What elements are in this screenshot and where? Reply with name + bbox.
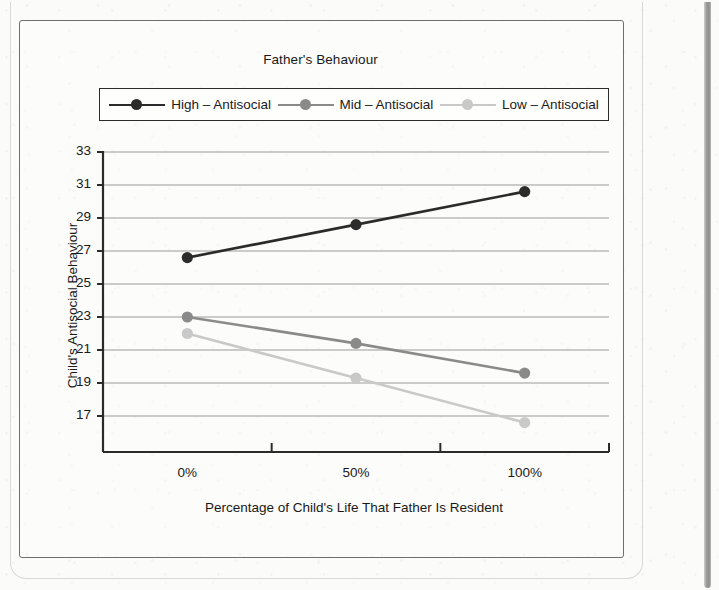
legend-label-low: Low – Antisocial: [502, 97, 599, 112]
scan-gutter-strip: [704, 2, 711, 588]
legend-item-high[interactable]: High – Antisocial: [109, 97, 271, 112]
legend-marker-high-icon: [109, 98, 165, 112]
legend-item-low[interactable]: Low – Antisocial: [440, 97, 599, 112]
legend-marker-low-icon: [440, 98, 496, 112]
x-axis-title: Percentage of Child's Life That Father I…: [99, 500, 609, 515]
legend-marker-mid-icon: [278, 98, 334, 112]
legend-label-mid: Mid – Antisocial: [340, 97, 434, 112]
legend-dot-mid: [300, 99, 311, 110]
chart-legend: High – Antisocial Mid – Antisocial Low –…: [99, 88, 609, 121]
x-tick-label: 50%: [316, 465, 396, 480]
legend-item-mid[interactable]: Mid – Antisocial: [278, 97, 434, 112]
legend-label-high: High – Antisocial: [171, 97, 271, 112]
chart-title: Father's Behaviour: [19, 52, 622, 67]
x-tick-label: 100%: [485, 465, 565, 480]
y-axis-title: Child's Antisocial Behaviour: [65, 156, 80, 456]
x-tick-label: 0%: [147, 465, 227, 480]
legend-dot-low: [462, 99, 473, 110]
legend-dot-high: [131, 99, 142, 110]
